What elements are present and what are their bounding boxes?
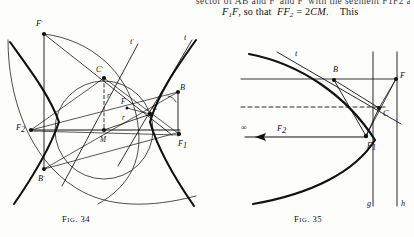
radius-r — [104, 115, 148, 130]
point-F — [394, 77, 398, 81]
label-infinity: ∞ — [241, 123, 247, 132]
label-t: t — [295, 49, 298, 58]
figure-34-caption: FIG. 34 — [62, 214, 90, 224]
label-h: h — [401, 199, 405, 208]
point-M — [102, 128, 106, 132]
label-M: M — [99, 136, 107, 144]
point-F2 — [29, 128, 33, 132]
point-B-prime — [42, 167, 46, 171]
math-FF2: FF2 — [277, 6, 293, 17]
text-so-that: , so that — [238, 6, 271, 17]
label-F2: F2 — [15, 123, 25, 134]
label-C: C — [152, 103, 158, 112]
figure-35: t B F C F1 ∞ F2 g h — [215, 24, 414, 214]
text-period: . — [326, 6, 329, 17]
math-F1: F1 — [222, 6, 232, 17]
label-B: B — [180, 83, 185, 92]
body-text-line: F1F, so thatFF2= 2CM.This — [222, 6, 358, 21]
chord-Bprime-to-F1 — [44, 132, 180, 169]
segment-F-to-C — [379, 79, 396, 108]
label-F: F — [120, 98, 126, 106]
caption-35-number: . 35 — [307, 214, 322, 224]
figure-34: F′ t′ t C′ B r′ F C F2 r M F1 B′ — [0, 18, 205, 216]
point-F-prime — [42, 32, 46, 36]
point-F — [126, 107, 129, 110]
text-this: This — [340, 6, 359, 17]
label-F2: F2 — [276, 124, 286, 135]
label-C-prime: C′ — [96, 65, 103, 74]
label-B-prime: B′ — [38, 174, 45, 183]
point-F1 — [364, 134, 368, 138]
point-B — [332, 78, 336, 82]
label-F-prime: F′ — [35, 19, 43, 28]
segment-B-to-C — [334, 80, 379, 108]
segment-B-to-F1 — [334, 80, 366, 136]
point-F1 — [177, 132, 181, 136]
math-equals-2: = 2 — [297, 6, 311, 17]
label-F1: F1 — [177, 139, 187, 150]
label-C: C — [383, 109, 389, 118]
label-r: r — [122, 114, 125, 122]
caption-34-number: . 34 — [75, 214, 90, 224]
point-C — [377, 106, 381, 110]
line-F-prime-to-F1 — [44, 34, 172, 135]
parabola-curve — [249, 54, 375, 204]
point-C-prime — [102, 76, 106, 80]
label-B: B — [333, 65, 338, 74]
label-F: F — [399, 71, 406, 80]
label-r-prime: r′ — [107, 92, 112, 100]
point-C — [148, 112, 152, 116]
label-t: t — [184, 33, 187, 42]
arc-lower-left — [8, 40, 196, 204]
label-g: g — [367, 199, 371, 208]
label-t-prime: t′ — [130, 37, 134, 46]
math-CM: CM — [310, 6, 326, 17]
segment-Cprime-to-F2 — [31, 78, 104, 130]
clipped-text-line-above: sector of AB and F' and F' with the segm… — [196, 0, 410, 4]
figure-35-caption: FIG. 35 — [294, 214, 322, 224]
